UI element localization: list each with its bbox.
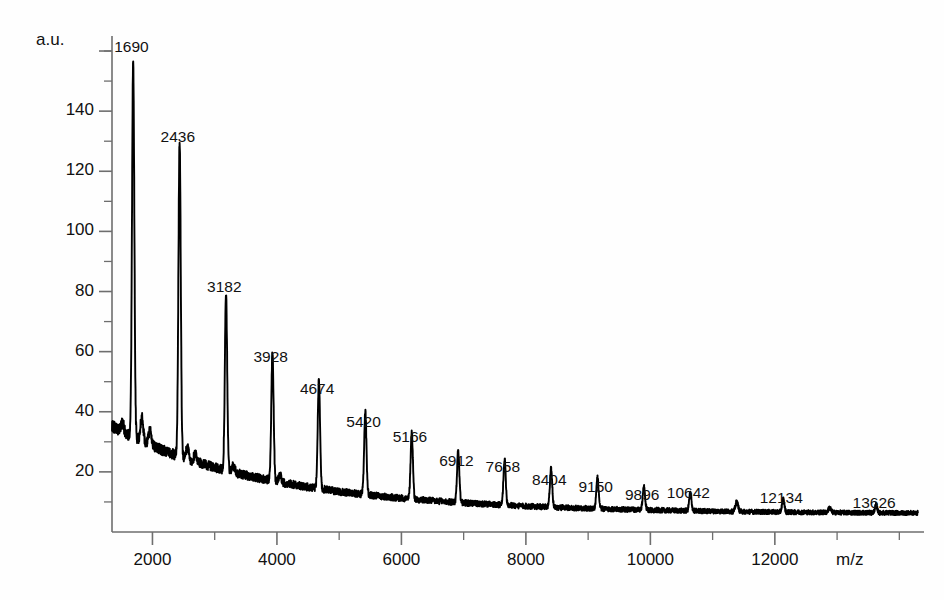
y-tick-label: 60	[8, 341, 94, 361]
peak-label: 3182	[207, 278, 241, 296]
peak-label: 10642	[667, 484, 710, 502]
x-tick-label: 12000	[730, 550, 820, 570]
y-tick-label: 80	[8, 281, 94, 301]
peak-label: 1690	[114, 38, 148, 56]
peak-label: 6912	[439, 452, 473, 470]
peak-label: 8404	[532, 471, 566, 489]
peak-label: 9896	[625, 486, 659, 504]
y-tick-label: 20	[8, 461, 94, 481]
peak-label: 3928	[253, 348, 287, 366]
x-tick-label: 10000	[605, 550, 695, 570]
x-tick-label: 4000	[232, 550, 322, 570]
spectrum-plot	[0, 0, 944, 600]
peak-label: 2436	[161, 128, 195, 146]
peak-label: 9150	[578, 478, 612, 496]
peak-label: 7658	[486, 458, 520, 476]
peak-label: 12134	[760, 489, 803, 507]
x-tick-label: 8000	[481, 550, 571, 570]
peak-label: 5420	[346, 413, 380, 431]
peak-label: 13626	[853, 494, 896, 512]
mass-spectrum-figure: 2040608010012014020004000600080001000012…	[0, 0, 944, 600]
peak-label: 5166	[393, 428, 427, 446]
y-axis-title: a.u.	[36, 30, 64, 50]
x-tick-label: 6000	[356, 550, 446, 570]
y-tick-label: 120	[8, 160, 94, 180]
y-tick-label: 100	[8, 220, 94, 240]
y-tick-label: 140	[8, 100, 94, 120]
x-axis-title: m/z	[836, 550, 863, 570]
x-tick-label: 2000	[107, 550, 197, 570]
peak-label: 4674	[300, 380, 334, 398]
y-tick-label: 40	[8, 401, 94, 421]
